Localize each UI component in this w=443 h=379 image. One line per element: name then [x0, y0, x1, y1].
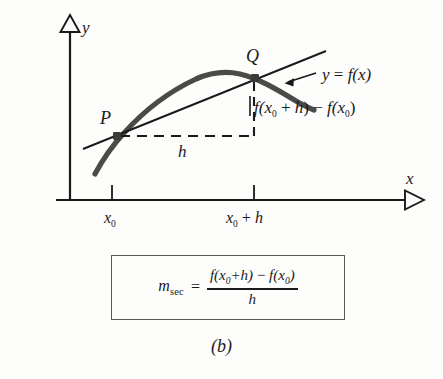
x-tick-label-x0-plus-h: x0 + h [225, 209, 263, 229]
point-marker-q [251, 74, 259, 82]
formula-lhs-base: m [158, 277, 170, 294]
y-axis-arrow-icon [61, 15, 80, 32]
point-label-q: Q [246, 46, 259, 66]
point-label-p: P [99, 108, 111, 128]
run-label-h: h [178, 142, 187, 161]
formula-fraction: f(x0+h) − f(x0) h [207, 268, 298, 308]
numerator-minus: − [253, 267, 269, 283]
formula-box: msec = f(x0+h) − f(x0) h [111, 255, 345, 320]
numerator-f2: f(x [269, 267, 285, 283]
curve-equation-label: y = f(x) [320, 65, 372, 84]
y-axis-label: y [80, 18, 90, 37]
numerator-f1-tail: +h) [231, 267, 254, 283]
numerator-f2-tail: ) [290, 267, 295, 283]
formula-denominator: h [249, 290, 257, 308]
curve-label-leader-arrow-icon [285, 73, 317, 87]
formula-lhs: msec [158, 277, 184, 297]
function-curve [95, 72, 314, 174]
formula-numerator: f(x0+h) − f(x0) [207, 268, 298, 289]
secant-line-figure: y x P Q h x0 x0 + h y = f(x) f(x0 + h) −… [0, 0, 443, 379]
figure-canvas: y x P Q h x0 x0 + h y = f(x) f(x0 + h) −… [0, 0, 443, 379]
x-axis-label: x [405, 169, 414, 188]
axes-group [56, 15, 424, 210]
point-marker-p [113, 132, 121, 140]
panel-label: (b) [0, 336, 443, 357]
formula-equals-sign: = [191, 278, 200, 298]
numerator-f1: f(x [210, 267, 226, 283]
formula-lhs-subscript: sec [170, 287, 184, 298]
x-axis-arrow-icon [405, 191, 424, 210]
rise-label: f(x0 + h) − f(x0) [254, 98, 355, 119]
x-tick-label-x0: x0 [103, 209, 116, 229]
formula-content: msec = f(x0+h) − f(x0) h [112, 256, 344, 319]
